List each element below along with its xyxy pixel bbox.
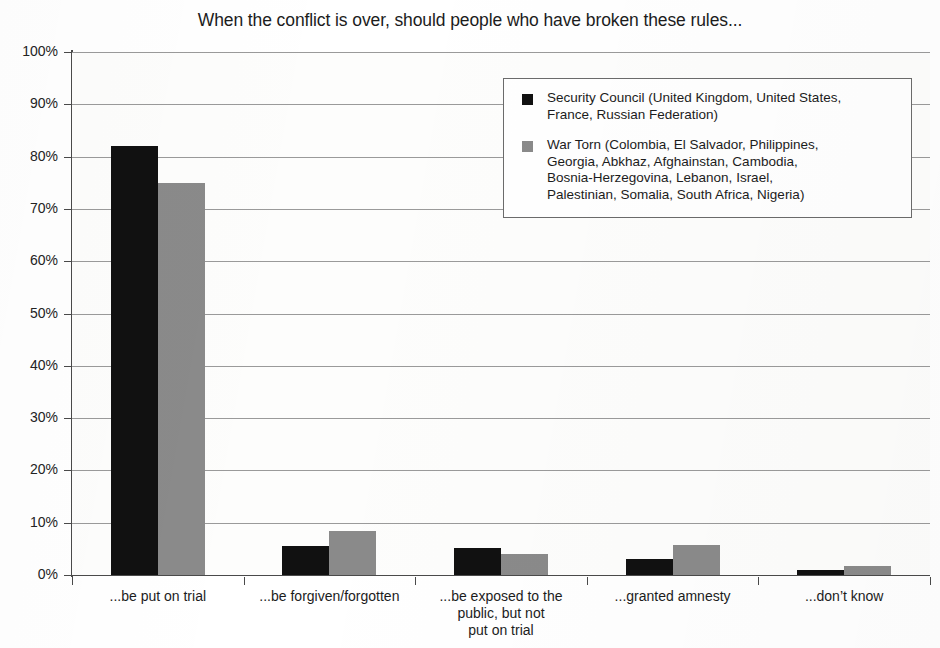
x-axis-tick	[244, 577, 245, 585]
bar-0-1	[282, 546, 329, 575]
bar-1-1	[329, 531, 376, 575]
y-axis-tick	[64, 157, 72, 158]
y-axis-tick-label: 20%	[0, 461, 58, 477]
x-axis-category-label: ...granted amnesty	[575, 588, 771, 605]
bar-1-4	[844, 566, 891, 575]
legend-item-label: War Torn (Colombia, El Salvador, Philipp…	[547, 137, 819, 203]
x-axis-category-label: ...be exposed to the public, but not put…	[403, 588, 599, 639]
y-axis-tick	[64, 366, 72, 367]
y-axis-tick	[64, 261, 72, 262]
y-axis-tick-label: 0%	[0, 566, 58, 582]
bar-1-3	[673, 545, 720, 575]
y-axis-tick	[64, 575, 72, 576]
legend-item-label: Security Council (United Kingdom, United…	[547, 90, 841, 123]
bar-0-2	[454, 548, 501, 575]
y-axis-tick	[64, 209, 72, 210]
y-axis-tick-label: 10%	[0, 514, 58, 530]
x-axis-category-label: ...be put on trial	[60, 588, 256, 605]
y-axis-tick	[64, 314, 72, 315]
black-square-icon	[522, 94, 533, 105]
bar-0-4	[797, 570, 844, 575]
chart-legend: Security Council (United Kingdom, United…	[503, 78, 912, 218]
legend-item: Security Council (United Kingdom, United…	[514, 90, 901, 123]
bar-1-0	[158, 183, 205, 575]
gray-square-icon	[522, 141, 533, 152]
legend-item: War Torn (Colombia, El Salvador, Philipp…	[514, 137, 901, 203]
y-axis-tick	[64, 523, 72, 524]
x-axis-tick	[758, 577, 759, 585]
y-axis-tick-label: 30%	[0, 409, 58, 425]
y-axis-tick	[64, 418, 72, 419]
y-axis-tick	[64, 52, 72, 53]
y-axis-tick-label: 60%	[0, 252, 58, 268]
y-axis-tick-label: 50%	[0, 305, 58, 321]
gridline	[72, 52, 930, 53]
y-axis-tick-label: 90%	[0, 95, 58, 111]
bar-0-3	[626, 559, 673, 575]
y-axis-tick	[64, 470, 72, 471]
bar-0-0	[111, 146, 158, 575]
y-axis-tick-label: 100%	[0, 43, 58, 59]
y-axis-tick-label: 80%	[0, 148, 58, 164]
y-axis-tick-label: 70%	[0, 200, 58, 216]
x-axis-tick	[930, 577, 931, 585]
bar-1-2	[501, 554, 548, 575]
y-axis-tick	[64, 104, 72, 105]
x-axis-category-label: ...don’t know	[746, 588, 940, 605]
x-axis-tick	[587, 577, 588, 585]
page-title: When the conflict is over, should people…	[0, 10, 940, 31]
y-axis-tick-label: 40%	[0, 357, 58, 373]
x-axis-category-label: ...be forgiven/forgotten	[232, 588, 428, 605]
chart-page: When the conflict is over, should people…	[0, 0, 940, 648]
x-axis-tick	[72, 577, 73, 585]
x-axis-tick	[415, 577, 416, 585]
